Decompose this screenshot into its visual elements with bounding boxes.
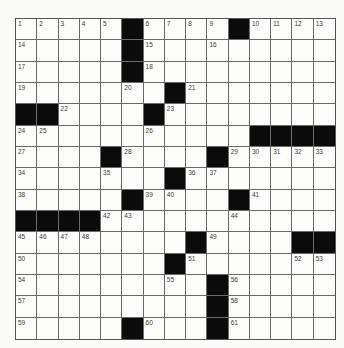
grid-cell[interactable] [271,104,292,125]
grid-cell[interactable] [207,104,228,125]
grid-cell[interactable] [229,83,250,104]
grid-cell[interactable] [314,62,335,83]
grid-cell[interactable] [250,275,271,296]
grid-cell[interactable]: 35 [101,168,122,189]
grid-cell[interactable] [229,168,250,189]
grid-cell[interactable] [229,104,250,125]
grid-cell[interactable]: 4 [80,19,101,40]
grid-cell[interactable] [144,275,165,296]
grid-cell[interactable] [292,168,313,189]
grid-cell[interactable] [186,40,207,61]
grid-cell[interactable] [101,275,122,296]
grid-cell[interactable]: 55 [165,275,186,296]
grid-cell[interactable] [186,104,207,125]
grid-cell[interactable] [186,126,207,147]
grid-cell[interactable] [165,232,186,253]
grid-cell[interactable]: 18 [144,62,165,83]
grid-cell[interactable]: 60 [144,318,165,339]
grid-cell[interactable]: 37 [207,168,228,189]
grid-cell[interactable] [250,318,271,339]
grid-cell[interactable] [229,40,250,61]
grid-cell[interactable] [207,254,228,275]
grid-cell[interactable] [59,168,80,189]
grid-cell[interactable] [122,168,143,189]
grid-cell[interactable] [101,232,122,253]
grid-cell[interactable]: 59 [16,318,37,339]
grid-cell[interactable]: 58 [229,296,250,317]
grid-cell[interactable] [207,126,228,147]
grid-cell[interactable] [250,62,271,83]
grid-cell[interactable]: 57 [16,296,37,317]
grid-cell[interactable] [229,232,250,253]
grid-cell[interactable] [250,168,271,189]
grid-cell[interactable]: 43 [122,211,143,232]
grid-cell[interactable] [165,126,186,147]
grid-cell[interactable] [37,275,58,296]
grid-cell[interactable] [59,62,80,83]
grid-cell[interactable] [80,126,101,147]
grid-cell[interactable] [101,318,122,339]
grid-cell[interactable]: 39 [144,190,165,211]
grid-cell[interactable]: 36 [186,168,207,189]
grid-cell[interactable] [80,83,101,104]
grid-cell[interactable]: 5 [101,19,122,40]
grid-cell[interactable] [229,62,250,83]
grid-cell[interactable]: 46 [37,232,58,253]
grid-cell[interactable]: 11 [271,19,292,40]
grid-cell[interactable]: 19 [16,83,37,104]
grid-cell[interactable] [207,190,228,211]
grid-cell[interactable] [122,254,143,275]
grid-cell[interactable] [37,296,58,317]
grid-cell[interactable] [186,211,207,232]
grid-cell[interactable]: 17 [16,62,37,83]
grid-cell[interactable] [250,40,271,61]
grid-cell[interactable] [59,296,80,317]
grid-cell[interactable]: 7 [165,19,186,40]
grid-cell[interactable]: 56 [229,275,250,296]
grid-cell[interactable] [207,83,228,104]
grid-cell[interactable] [59,254,80,275]
grid-cell[interactable]: 10 [250,19,271,40]
grid-cell[interactable] [186,147,207,168]
grid-cell[interactable] [292,275,313,296]
grid-cell[interactable] [165,296,186,317]
grid-cell[interactable] [271,318,292,339]
grid-cell[interactable]: 23 [165,104,186,125]
grid-cell[interactable]: 48 [80,232,101,253]
grid-cell[interactable]: 1 [16,19,37,40]
grid-cell[interactable] [37,147,58,168]
grid-cell[interactable] [271,211,292,232]
grid-cell[interactable]: 50 [16,254,37,275]
grid-cell[interactable] [122,104,143,125]
grid-cell[interactable] [59,318,80,339]
grid-cell[interactable]: 21 [186,83,207,104]
grid-cell[interactable] [292,83,313,104]
grid-cell[interactable]: 34 [16,168,37,189]
grid-cell[interactable]: 20 [122,83,143,104]
grid-cell[interactable]: 54 [16,275,37,296]
grid-cell[interactable] [59,190,80,211]
grid-cell[interactable] [122,126,143,147]
grid-cell[interactable] [314,40,335,61]
grid-cell[interactable] [101,126,122,147]
grid-cell[interactable]: 45 [16,232,37,253]
grid-cell[interactable] [80,40,101,61]
grid-cell[interactable]: 42 [101,211,122,232]
grid-cell[interactable] [59,275,80,296]
grid-cell[interactable] [207,62,228,83]
grid-cell[interactable] [207,211,228,232]
grid-cell[interactable] [59,40,80,61]
grid-cell[interactable]: 14 [16,40,37,61]
grid-cell[interactable] [59,83,80,104]
grid-cell[interactable] [101,40,122,61]
grid-cell[interactable]: 38 [16,190,37,211]
grid-cell[interactable]: 2 [37,19,58,40]
grid-cell[interactable] [37,168,58,189]
grid-cell[interactable]: 22 [59,104,80,125]
grid-cell[interactable]: 29 [229,147,250,168]
grid-cell[interactable] [80,296,101,317]
grid-cell[interactable] [165,318,186,339]
grid-cell[interactable] [314,190,335,211]
grid-cell[interactable] [250,232,271,253]
grid-cell[interactable] [314,104,335,125]
